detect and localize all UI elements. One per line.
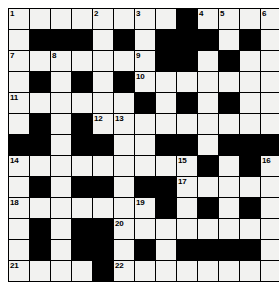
letter-cell[interactable]	[93, 198, 113, 218]
letter-cell[interactable]	[198, 114, 218, 134]
letter-cell[interactable]	[51, 72, 71, 92]
letter-cell[interactable]	[72, 9, 92, 29]
letter-cell[interactable]	[51, 198, 71, 218]
letter-cell[interactable]	[156, 156, 176, 176]
letter-cell[interactable]	[93, 156, 113, 176]
letter-cell[interactable]	[9, 240, 29, 260]
letter-cell[interactable]	[261, 114, 279, 134]
letter-cell[interactable]	[51, 261, 71, 281]
letter-cell[interactable]: 1	[9, 9, 29, 29]
letter-cell[interactable]: 10	[135, 72, 155, 92]
letter-cell[interactable]	[9, 177, 29, 197]
letter-cell[interactable]	[219, 198, 239, 218]
letter-cell[interactable]: 7	[9, 51, 29, 71]
letter-cell[interactable]	[156, 9, 176, 29]
letter-cell[interactable]	[156, 114, 176, 134]
letter-cell[interactable]	[198, 177, 218, 197]
letter-cell[interactable]	[51, 177, 71, 197]
letter-cell[interactable]: 4	[198, 9, 218, 29]
letter-cell[interactable]	[240, 219, 260, 239]
letter-cell[interactable]	[261, 30, 279, 50]
letter-cell[interactable]	[240, 51, 260, 71]
letter-cell[interactable]: 2	[93, 9, 113, 29]
letter-cell[interactable]	[72, 51, 92, 71]
letter-cell[interactable]: 20	[114, 219, 134, 239]
letter-cell[interactable]	[177, 198, 197, 218]
letter-cell[interactable]: 9	[135, 51, 155, 71]
letter-cell[interactable]	[261, 93, 279, 113]
letter-cell[interactable]	[51, 219, 71, 239]
letter-cell[interactable]	[51, 156, 71, 176]
letter-cell[interactable]	[219, 177, 239, 197]
letter-cell[interactable]	[93, 51, 113, 71]
letter-cell[interactable]	[72, 198, 92, 218]
letter-cell[interactable]: 17	[177, 177, 197, 197]
letter-cell[interactable]	[219, 72, 239, 92]
letter-cell[interactable]	[51, 93, 71, 113]
letter-cell[interactable]: 14	[9, 156, 29, 176]
letter-cell[interactable]	[114, 9, 134, 29]
letter-cell[interactable]	[93, 93, 113, 113]
letter-cell[interactable]	[30, 51, 50, 71]
letter-cell[interactable]	[114, 156, 134, 176]
letter-cell[interactable]	[9, 219, 29, 239]
letter-cell[interactable]: 13	[114, 114, 134, 134]
letter-cell[interactable]	[114, 198, 134, 218]
letter-cell[interactable]	[135, 30, 155, 50]
letter-cell[interactable]: 15	[177, 156, 197, 176]
letter-cell[interactable]	[177, 219, 197, 239]
letter-cell[interactable]	[240, 114, 260, 134]
letter-cell[interactable]	[30, 9, 50, 29]
letter-cell[interactable]: 11	[9, 93, 29, 113]
letter-cell[interactable]	[93, 72, 113, 92]
letter-cell[interactable]	[240, 261, 260, 281]
letter-cell[interactable]	[177, 72, 197, 92]
letter-cell[interactable]	[177, 114, 197, 134]
letter-cell[interactable]	[261, 177, 279, 197]
letter-cell[interactable]	[135, 156, 155, 176]
letter-cell[interactable]	[135, 219, 155, 239]
letter-cell[interactable]: 19	[135, 198, 155, 218]
letter-cell[interactable]	[9, 30, 29, 50]
letter-cell[interactable]	[30, 93, 50, 113]
letter-cell[interactable]: 3	[135, 9, 155, 29]
letter-cell[interactable]	[114, 135, 134, 155]
letter-cell[interactable]	[9, 114, 29, 134]
letter-cell[interactable]: 21	[9, 261, 29, 281]
letter-cell[interactable]	[261, 198, 279, 218]
letter-cell[interactable]	[261, 261, 279, 281]
letter-cell[interactable]	[219, 114, 239, 134]
letter-cell[interactable]	[177, 261, 197, 281]
letter-cell[interactable]	[156, 72, 176, 92]
letter-cell[interactable]: 5	[219, 9, 239, 29]
letter-cell[interactable]: 18	[9, 198, 29, 218]
letter-cell[interactable]	[261, 240, 279, 260]
letter-cell[interactable]	[30, 261, 50, 281]
letter-cell[interactable]	[51, 240, 71, 260]
letter-cell[interactable]	[261, 219, 279, 239]
letter-cell[interactable]: 12	[93, 114, 113, 134]
letter-cell[interactable]: 8	[51, 51, 71, 71]
letter-cell[interactable]	[240, 93, 260, 113]
letter-cell[interactable]	[219, 219, 239, 239]
letter-cell[interactable]	[198, 93, 218, 113]
letter-cell[interactable]	[135, 114, 155, 134]
letter-cell[interactable]	[93, 30, 113, 50]
letter-cell[interactable]	[51, 114, 71, 134]
letter-cell[interactable]	[219, 261, 239, 281]
crossword-grid[interactable]: 12345678910111213141516171819202122	[8, 8, 279, 282]
letter-cell[interactable]	[219, 156, 239, 176]
letter-cell[interactable]	[135, 135, 155, 155]
letter-cell[interactable]	[135, 261, 155, 281]
letter-cell[interactable]: 22	[114, 261, 134, 281]
letter-cell[interactable]	[240, 72, 260, 92]
letter-cell[interactable]	[51, 9, 71, 29]
letter-cell[interactable]	[198, 51, 218, 71]
letter-cell[interactable]	[9, 72, 29, 92]
letter-cell[interactable]	[30, 156, 50, 176]
letter-cell[interactable]	[219, 30, 239, 50]
letter-cell[interactable]: 16	[261, 156, 279, 176]
letter-cell[interactable]	[240, 9, 260, 29]
letter-cell[interactable]	[114, 93, 134, 113]
letter-cell[interactable]	[156, 261, 176, 281]
